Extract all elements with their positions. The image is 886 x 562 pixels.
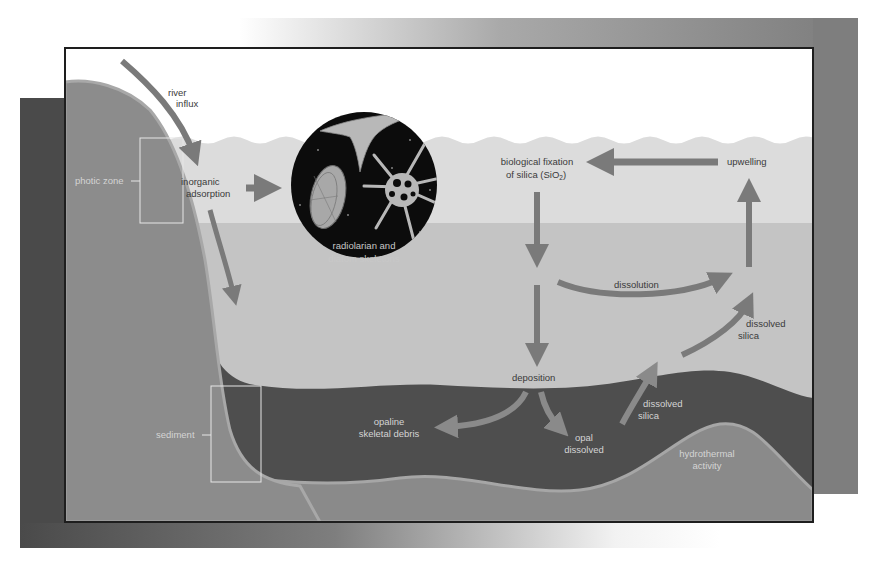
upwelling-label: upwelling	[727, 156, 767, 167]
inorganic-adsorption-label-line1: inorganic	[181, 176, 220, 187]
dissolved-silica-upper-line1: dissolved	[746, 318, 786, 329]
fixation-formula-close: )	[563, 169, 566, 180]
river-influx-label-line1: river	[168, 87, 186, 98]
bottom-gradient-strip	[20, 523, 720, 548]
hydrothermal-line2: activity	[692, 460, 721, 471]
right-gray-panel	[813, 18, 858, 494]
opal-dissolved-line2: dissolved	[564, 444, 604, 455]
dissolved-silica-lower-line1: dissolved	[643, 398, 683, 409]
opal-dissolved-line1: opal	[575, 432, 593, 443]
hydrothermal-line1: hydrothermal	[679, 448, 734, 459]
inset-caption-line2: diatom skeletons	[328, 253, 400, 264]
opaline-debris-line1: opaline	[374, 416, 405, 427]
opaline-debris-line2: skeletal debris	[359, 428, 420, 439]
river-influx-label-line2: influx	[176, 98, 198, 109]
inorganic-adsorption-label-line2: adsorption	[186, 188, 230, 199]
silica-cycle-diagram: photic zone sediment	[0, 0, 886, 562]
left-dark-panel	[20, 98, 65, 548]
photic-zone-label: photic zone	[75, 175, 124, 186]
biological-fixation-label-line2: of silica (SiO2)	[506, 169, 566, 181]
sediment-label: sediment	[156, 429, 195, 440]
top-gradient-strip	[64, 18, 858, 48]
deposition-label: deposition	[512, 372, 555, 383]
dissolution-label: dissolution	[614, 279, 659, 290]
fixation-formula-text: of silica (SiO	[506, 169, 559, 180]
dissolved-silica-lower-line2: silica	[638, 410, 660, 421]
biological-fixation-label-line1: biological fixation	[501, 156, 573, 167]
dissolved-silica-upper-line2: silica	[738, 330, 760, 341]
inset-caption-line1: radiolarian and	[333, 240, 396, 251]
